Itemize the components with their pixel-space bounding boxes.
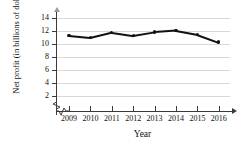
y-axis-arrow-icon [54,7,60,12]
y-axis-tick-label: 6 [33,66,49,74]
gridline [57,57,230,58]
data-point-marker[interactable] [132,34,135,37]
y-axis-tick-label: 4 [33,79,49,87]
line-chart: Net profit (in billions of dollars) 2468… [0,0,250,149]
x-axis-tick [176,106,177,112]
x-axis-tick [197,106,198,112]
gridline [57,83,230,84]
x-axis-line [56,111,233,112]
y-axis-tick [52,18,57,19]
x-axis-tick [69,106,70,112]
line-segment [69,35,91,38]
y-axis-tick-label: 8 [33,53,49,61]
x-axis-tick-label: 2016 [206,114,232,123]
y-axis-tick [52,57,57,58]
gridline [57,18,230,19]
data-point-marker[interactable] [89,36,92,39]
x-axis-title: Year [55,129,230,139]
gridline [57,44,230,45]
y-axis-tick [52,96,57,97]
gridline [57,70,230,71]
x-axis-tick [112,106,113,112]
line-segment [112,32,134,37]
data-point-marker[interactable] [67,34,70,37]
y-axis-title: Net profit (in billions of dollars) [12,0,22,94]
gridline [57,96,230,97]
line-segment [90,32,112,39]
gridline [57,31,230,32]
x-axis-tick [219,106,220,112]
data-point-marker[interactable] [174,29,177,32]
y-axis-tick [52,44,57,45]
y-axis-tick [52,31,57,32]
y-axis-tick-label: 12 [33,27,49,35]
data-point-marker[interactable] [153,30,156,33]
y-axis-tick-label: 14 [33,14,49,22]
data-point-marker[interactable] [196,33,199,36]
plot-area [57,16,230,112]
y-axis-tick [52,70,57,71]
x-axis-tick [155,106,156,112]
y-axis-tick [52,83,57,84]
chart-title-cropped [60,0,240,4]
x-axis-tick [90,106,91,112]
y-axis-tick-label: 2 [33,92,49,100]
x-axis-arrow-icon [232,108,237,114]
line-segment [197,34,219,43]
y-axis-tick-label: 10 [33,40,49,48]
x-axis-tick [133,106,134,112]
